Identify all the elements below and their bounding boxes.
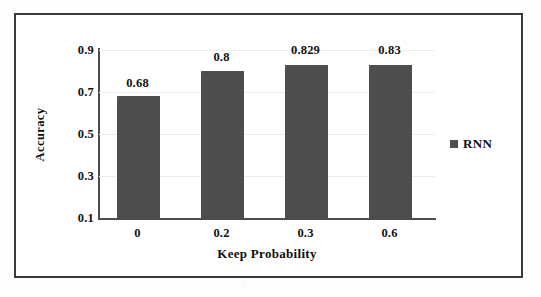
bar-0.6[interactable] bbox=[369, 65, 412, 218]
legend-square-marker-icon bbox=[450, 140, 458, 148]
x-axis-line bbox=[98, 218, 436, 220]
legend-entry-label-rnn[interactable]: RNN bbox=[463, 136, 492, 152]
x-tick-label-0: 0 bbox=[99, 226, 176, 241]
y-tick-label-0.7: 0.7 bbox=[78, 85, 94, 100]
figure-root: 0.9 0.7 0.5 0.3 0.1 Accuracy 0.68 0.8 0.… bbox=[0, 0, 541, 297]
y-axis-tick-labels: 0.9 0.7 0.5 0.3 0.1 bbox=[56, 15, 94, 280]
chart-frame: 0.9 0.7 0.5 0.3 0.1 Accuracy 0.68 0.8 0.… bbox=[14, 13, 523, 278]
y-tick-label-0.1: 0.1 bbox=[78, 211, 94, 226]
bar-value-label-0.6: 0.83 bbox=[351, 43, 428, 58]
legend: RNN bbox=[450, 136, 492, 152]
x-tick-label-0.6: 0.6 bbox=[351, 226, 428, 241]
x-axis-title: Keep Probability bbox=[99, 246, 435, 262]
bar-0.3[interactable] bbox=[285, 65, 328, 218]
y-tick-label-0.3: 0.3 bbox=[78, 169, 94, 184]
bar-value-label-0: 0.68 bbox=[99, 76, 176, 91]
x-tick-label-0.3: 0.3 bbox=[267, 226, 344, 241]
x-tick-label-0.2: 0.2 bbox=[183, 226, 260, 241]
y-tick-label-0.9: 0.9 bbox=[78, 43, 94, 58]
bar-value-label-0.2: 0.8 bbox=[183, 50, 260, 65]
bar-0.2[interactable] bbox=[201, 71, 244, 218]
y-axis-title: Accuracy bbox=[33, 90, 48, 180]
y-tick-label-0.5: 0.5 bbox=[78, 127, 94, 142]
bar-0[interactable] bbox=[117, 96, 160, 218]
bar-value-label-0.3: 0.829 bbox=[267, 43, 344, 58]
